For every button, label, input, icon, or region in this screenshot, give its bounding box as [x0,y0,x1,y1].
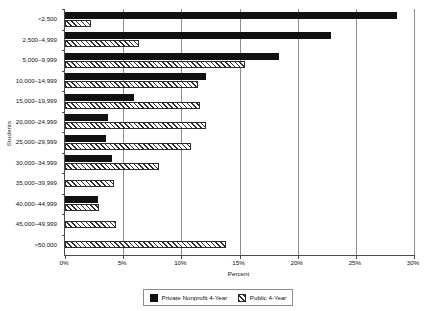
plot-area [64,9,414,256]
x-axis-tick-label: 15% [232,259,244,266]
y-axis-tick [62,30,65,31]
y-axis-category-label: 25,000–29,999 [0,132,61,153]
y-axis-tick [62,50,65,51]
bar-private-nonprofit-4-year [65,114,108,121]
bar-private-nonprofit-4-year [65,12,397,19]
y-axis-category-label: 20,000–24,999 [0,112,61,133]
bar-row [65,235,414,256]
bar-row [65,30,414,51]
y-axis-tick [62,214,65,215]
legend-label: Public 4-Year [250,294,287,301]
bar-private-nonprofit-4-year [65,135,106,142]
y-axis-category-label: 40,000–44,999 [0,194,61,215]
bar-private-nonprofit-4-year [65,73,206,80]
y-axis-tick [62,194,65,195]
y-axis-category-label: 35,000–39,999 [0,173,61,194]
bar-row [65,50,414,71]
y-axis-category-label: 45,000–49,999 [0,214,61,235]
x-axis-tick-label: 25% [349,259,361,266]
bar-public-4-year [65,20,91,27]
legend-item: Public 4-Year [238,294,286,302]
x-axis-tick-label: 20% [290,259,302,266]
bar-row [65,9,414,30]
y-axis-category-label: 5,000–9,999 [0,50,61,71]
y-axis-tick [62,71,65,72]
y-axis-tick [62,153,65,154]
bar-row [65,71,414,92]
y-axis-category-labels: <2,5002,500–4,9995,000–9,99910,000–14,99… [0,9,61,255]
gridline [414,9,415,255]
x-axis-tick-label: 10% [174,259,186,266]
bar-public-4-year [65,163,159,170]
y-axis-category-label: 15,000–19,999 [0,91,61,112]
x-axis-tick-labels: 0%5%10%15%20%25%30% [64,259,413,269]
x-axis-tick-label: 0% [60,259,69,266]
bar-private-nonprofit-4-year [65,32,331,39]
bar-public-4-year [65,81,198,88]
bar-public-4-year [65,241,226,248]
bar-private-nonprofit-4-year [65,53,279,60]
bar-public-4-year [65,40,139,47]
y-axis-category-label: 30,000–34,999 [0,153,61,174]
y-axis-tick [62,173,65,174]
bar-public-4-year [65,122,206,129]
bar-private-nonprofit-4-year [65,94,134,101]
y-axis-tick [62,132,65,133]
y-axis-tick [62,235,65,236]
y-axis-category-label: <2,500 [0,9,61,30]
y-axis-category-label: 2,500–4,999 [0,30,61,51]
bar-row [65,214,414,235]
legend-label: Private Nonprofit 4-Year [162,294,228,301]
bar-public-4-year [65,102,200,109]
y-axis-tick [62,91,65,92]
x-axis-tick-label: 30% [407,259,419,266]
legend-item: Private Nonprofit 4-Year [150,294,227,302]
bar-chart: Students <2,5002,500–4,9995,000–9,99910,… [0,0,424,311]
x-axis-tick-label: 5% [118,259,127,266]
hatched-square-icon [238,294,246,302]
bar-row [65,132,414,153]
x-axis-title: Percent [64,270,413,277]
bar-private-nonprofit-4-year [65,196,98,203]
solid-square-icon [150,294,158,302]
bar-row [65,91,414,112]
bar-rows [65,9,414,255]
y-axis-category-label: 10,000–14,999 [0,71,61,92]
y-axis-tick [62,112,65,113]
bar-public-4-year [65,143,191,150]
bar-row [65,112,414,133]
y-axis-tick [62,9,65,10]
bar-row [65,173,414,194]
bar-public-4-year [65,221,116,228]
y-axis-category-label: >50,000 [0,235,61,256]
bar-public-4-year [65,204,99,211]
bar-row [65,153,414,174]
bar-row [65,194,414,215]
bar-public-4-year [65,61,245,68]
chart-legend: Private Nonprofit 4-YearPublic 4-Year [143,289,293,306]
bar-private-nonprofit-4-year [65,155,112,162]
bar-public-4-year [65,180,114,187]
